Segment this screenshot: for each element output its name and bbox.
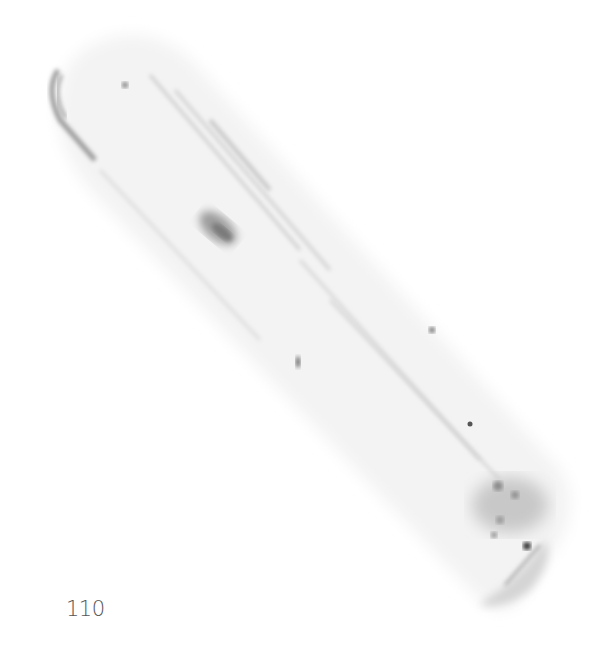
figure-panel: 110 (0, 0, 613, 649)
specimen-image (0, 0, 613, 649)
panel-label: 110 (66, 597, 105, 621)
